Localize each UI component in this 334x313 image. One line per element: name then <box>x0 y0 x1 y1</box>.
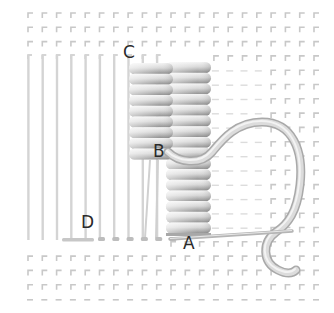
label-a: A <box>183 235 195 252</box>
label-c: C <box>123 44 135 61</box>
label-d: D <box>81 214 94 231</box>
stitch-diagram-canvas <box>0 0 334 313</box>
label-b: B <box>153 143 165 160</box>
stitch-diagram: C B D A <box>0 0 334 313</box>
